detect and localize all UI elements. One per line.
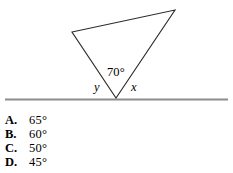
choice-option-b[interactable]: B. 60° <box>0 127 233 141</box>
choice-value: 65° <box>29 113 47 127</box>
choice-letter: A. <box>5 113 17 127</box>
answer-choices: A. 65° B. 60° C. 50° D. 45° <box>0 113 233 169</box>
right-exterior-angle-label: x <box>131 81 137 94</box>
geometry-diagram-svg <box>0 0 233 112</box>
choice-letter: B. <box>5 127 16 141</box>
apex-angle-label: 70° <box>107 66 125 79</box>
choice-option-a[interactable]: A. 65° <box>0 113 233 127</box>
choice-letter: D. <box>5 155 17 169</box>
choice-value: 60° <box>29 127 47 141</box>
triangle-shape <box>72 10 175 98</box>
choice-value: 45° <box>29 155 47 169</box>
choice-option-c[interactable]: C. 50° <box>0 141 233 155</box>
choice-option-d[interactable]: D. 45° <box>0 155 233 169</box>
choice-letter: C. <box>5 141 17 155</box>
geometry-figure: 70° y x <box>0 0 233 112</box>
choice-value: 50° <box>29 141 47 155</box>
left-exterior-angle-label: y <box>94 81 100 94</box>
